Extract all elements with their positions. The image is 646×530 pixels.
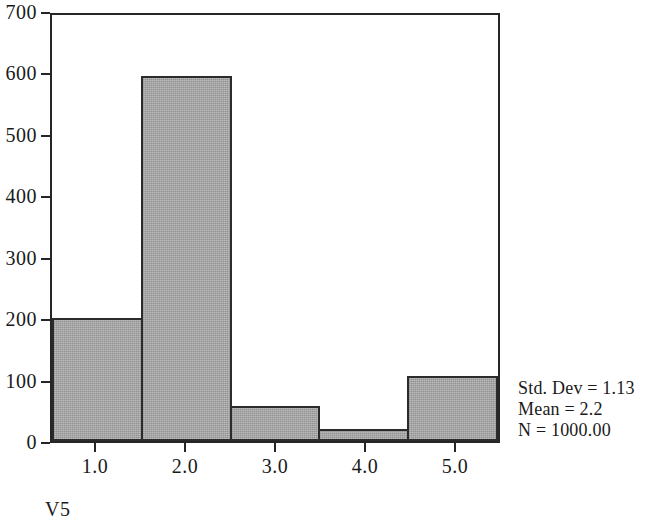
y-tick-label: 0 xyxy=(27,431,38,453)
std-dev-label: Std. Dev = 1.13 xyxy=(518,378,644,399)
x-tick-label: 3.0 xyxy=(245,455,305,477)
y-tick-label: 500 xyxy=(6,124,38,146)
x-tick-label: 2.0 xyxy=(155,455,215,477)
histogram-bar xyxy=(407,376,498,441)
y-tick-mark xyxy=(41,258,50,260)
mean-label: Mean = 2.2 xyxy=(518,399,644,420)
x-axis: 1.0 2.0 3.0 4.0 5.0 xyxy=(50,443,500,483)
y-tick-mark xyxy=(41,196,50,198)
y-tick-label: 200 xyxy=(6,308,38,330)
x-tick-mark xyxy=(274,443,276,452)
x-tick-label: 5.0 xyxy=(425,455,485,477)
histogram-bars xyxy=(52,15,498,441)
histogram-bar xyxy=(318,429,409,441)
histogram-bar xyxy=(230,406,321,441)
y-tick-label: 400 xyxy=(6,185,38,207)
statistics-annotation: Std. Dev = 1.13 Mean = 2.2 N = 1000.00 xyxy=(518,378,644,441)
y-tick-mark xyxy=(41,135,50,137)
x-tick-mark xyxy=(184,443,186,452)
sample-size-label: N = 1000.00 xyxy=(518,420,644,441)
histogram-bar xyxy=(141,76,232,441)
x-tick-mark xyxy=(94,443,96,452)
y-tick-mark xyxy=(41,381,50,383)
y-tick-mark xyxy=(41,442,50,444)
x-tick-mark xyxy=(364,443,366,452)
x-tick-label: 4.0 xyxy=(335,455,395,477)
x-tick-label: 1.0 xyxy=(65,455,125,477)
histogram-figure: 0 100 200 300 400 500 600 700 xyxy=(0,0,646,530)
y-tick-mark xyxy=(41,12,50,14)
x-tick-mark xyxy=(454,443,456,452)
x-axis-title: V5 xyxy=(45,498,70,520)
y-tick-mark xyxy=(41,73,50,75)
y-tick-label: 100 xyxy=(6,370,38,392)
y-axis: 0 100 200 300 400 500 600 700 xyxy=(0,13,50,443)
plot-area xyxy=(50,13,500,443)
y-tick-label: 300 xyxy=(6,247,38,269)
y-tick-label: 600 xyxy=(6,62,38,84)
histogram-bar xyxy=(52,318,143,441)
y-tick-mark xyxy=(41,319,50,321)
y-tick-label: 700 xyxy=(6,1,38,23)
